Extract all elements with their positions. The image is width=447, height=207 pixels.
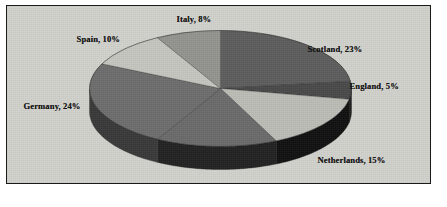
- chart-frame: Scotland, 23%England, 5%Netherlands, 15%…: [6, 5, 431, 184]
- slice-label-spain: Spain, 10%: [77, 34, 121, 44]
- pie-slice-scotland[interactable]: [221, 31, 351, 89]
- slice-label-scotland: Scotland, 23%: [308, 44, 363, 54]
- slice-label-england: England, 5%: [350, 81, 399, 91]
- pie-chart-figure: Scotland, 23%England, 5%Netherlands, 15%…: [0, 0, 447, 207]
- slice-label-italy: Italy, 8%: [177, 14, 212, 24]
- slice-label-germany: Germany, 24%: [24, 101, 81, 111]
- slice-label-netherlands: Netherlands, 15%: [318, 155, 386, 165]
